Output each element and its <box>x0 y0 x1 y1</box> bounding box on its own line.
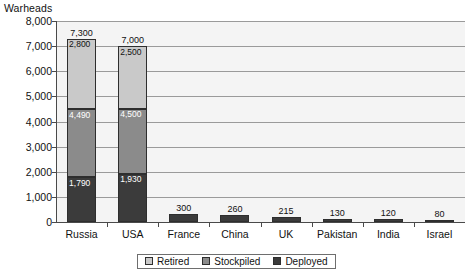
x-axis-tick-mark <box>209 222 210 227</box>
x-axis-label-russia: Russia <box>56 228 107 240</box>
legend-label-deployed: Deployed <box>285 256 327 267</box>
bar-segment-retired[interactable] <box>67 39 96 110</box>
segment-value-label: 2,800 <box>69 40 90 49</box>
segment-value-label: 1,930 <box>120 175 141 184</box>
bars-layer: 1,7904,4902,8007,3001,9304,5002,5007,000… <box>56 21 465 222</box>
y-axis-tick-label: 3,000 <box>0 141 52 153</box>
segment-value-label: 2,500 <box>120 48 141 57</box>
legend-swatch-retired <box>145 257 153 265</box>
x-axis-label-india: India <box>363 228 414 240</box>
x-axis-label-usa: USA <box>107 228 158 240</box>
legend-item-deployed[interactable]: Deployed <box>273 256 327 267</box>
plot-area: 1,7904,4902,8007,3001,9304,5002,5007,000… <box>56 21 465 222</box>
bar-total-label: 80 <box>417 209 461 219</box>
y-axis-tick-mark <box>52 172 57 173</box>
y-axis-tick-label: 2,000 <box>0 166 52 178</box>
chart-legend: Retired Stockpiled Deployed <box>137 254 336 269</box>
x-axis-tick-mark <box>158 222 159 227</box>
y-axis-tick-mark <box>52 147 57 148</box>
legend-item-stockpiled[interactable]: Stockpiled <box>202 256 260 267</box>
y-axis-tick-label: 8,000 <box>0 15 52 27</box>
y-axis-tick-mark <box>52 21 57 22</box>
x-axis-tick-mark <box>414 222 415 227</box>
bar-total-label: 300 <box>162 203 206 213</box>
y-axis-tick-mark <box>52 222 57 223</box>
y-axis-tick-label: 1,000 <box>0 191 52 203</box>
x-axis-label-israel: Israel <box>414 228 465 240</box>
y-axis-title: Warheads <box>4 2 52 14</box>
bar-total-label: 7,000 <box>111 35 155 45</box>
segment-value-label: 4,500 <box>120 110 141 119</box>
legend-swatch-deployed <box>273 257 281 265</box>
legend-label-stockpiled: Stockpiled <box>214 256 260 267</box>
x-axis-tick-mark <box>312 222 313 227</box>
bar-total-label: 215 <box>264 206 308 216</box>
legend-item-retired[interactable]: Retired <box>145 256 189 267</box>
bar-segment-deployed[interactable] <box>220 215 249 222</box>
bar-total-label: 7,300 <box>60 28 104 38</box>
segment-value-label: 1,790 <box>69 179 90 188</box>
x-axis-tick-mark <box>363 222 364 227</box>
y-axis-tick-label: 0 <box>0 216 52 228</box>
y-axis-tick-label: 6,000 <box>0 65 52 77</box>
segment-value-label: 4,490 <box>69 111 90 120</box>
x-axis-label-uk: UK <box>261 228 312 240</box>
legend-swatch-stockpiled <box>202 257 210 265</box>
chart-container: Warheads 1,7904,4902,8007,3001,9304,5002… <box>0 0 476 278</box>
y-axis-tick-mark <box>52 197 57 198</box>
x-axis-tick-mark <box>107 222 108 227</box>
bar-segment-deployed[interactable] <box>169 214 198 222</box>
bar-total-label: 260 <box>213 204 257 214</box>
y-axis-tick-label: 5,000 <box>0 90 52 102</box>
y-axis-tick-mark <box>52 96 57 97</box>
x-axis-tick-mark <box>261 222 262 227</box>
bar-total-label: 130 <box>315 208 359 218</box>
y-axis-tick-mark <box>52 46 57 47</box>
y-axis-tick-mark <box>52 122 57 123</box>
legend-label-retired: Retired <box>157 256 189 267</box>
y-axis-tick-label: 4,000 <box>0 116 52 128</box>
bar-total-label: 120 <box>366 208 410 218</box>
x-axis-label-china: China <box>209 228 260 240</box>
x-axis-label-france: France <box>158 228 209 240</box>
x-axis-label-pakistan: Pakistan <box>312 228 363 240</box>
y-axis-tick-label: 7,000 <box>0 40 52 52</box>
y-axis-tick-mark <box>52 71 57 72</box>
